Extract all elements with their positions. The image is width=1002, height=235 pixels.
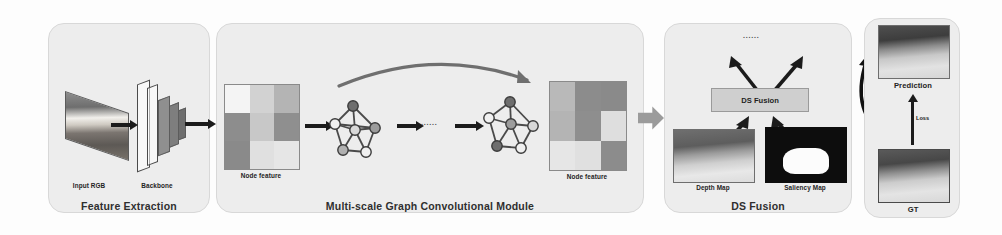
graph-node	[361, 147, 371, 157]
graph-node	[505, 97, 515, 107]
grid-cell-1-2	[274, 113, 299, 141]
title-feature-extraction: Feature Extraction	[49, 200, 209, 212]
label-saliency-map: Saliency Map	[765, 184, 845, 191]
figure-canvas: Input RGB Backbone Feature Extraction No…	[0, 0, 1002, 235]
arrow-rgb-to-backbone	[111, 123, 131, 127]
grid-cell-2-2	[601, 141, 626, 170]
grid-cell-0-0	[550, 82, 575, 111]
graph-node	[484, 113, 494, 123]
arrow-gt-to-prediction	[911, 101, 914, 145]
saliency-map-image	[765, 127, 847, 183]
graph-scale-n	[483, 90, 545, 162]
grid-cell-2-2	[274, 141, 299, 169]
node-feature-grid-1	[224, 84, 300, 170]
label-prediction: Prediction	[868, 81, 958, 90]
grid-cell-0-2	[601, 82, 626, 111]
grid-cell-1-1	[575, 111, 600, 140]
label-gt: GT	[868, 205, 958, 214]
grid-cell-1-1	[250, 113, 275, 141]
title-gcn-module: Multi-scale Graph Convolutional Module	[217, 200, 643, 212]
arrow-grid1-to-graph1	[305, 124, 327, 128]
panel-gcn-module: Node feature ...... Node feature Multi-s…	[216, 23, 644, 213]
grid-cell-0-0	[225, 85, 250, 113]
saliency-blob	[783, 148, 829, 174]
gcn-ellipsis: ......	[421, 119, 437, 126]
arrow-graph1-to-ellipsis	[397, 124, 417, 128]
graph-node	[338, 145, 348, 155]
grid-cell-1-2	[601, 111, 626, 140]
graph-node	[528, 121, 538, 131]
grid-cell-0-1	[575, 82, 600, 111]
graph-node	[492, 141, 502, 151]
title-ds-fusion: DS Fusion	[665, 200, 851, 212]
grid-cell-2-1	[575, 141, 600, 170]
arrow-ellipsis-to-graphn	[455, 124, 477, 128]
graph-scale-1	[331, 92, 391, 164]
label-backbone: Backbone	[127, 182, 187, 189]
panel-prediction-gt: Prediction Loss GT	[864, 18, 960, 218]
graph-node	[348, 101, 358, 111]
recurrent-arc-arrow	[335, 54, 535, 88]
label-loss: Loss	[916, 115, 929, 121]
grid-cell-2-1	[250, 141, 275, 169]
grid-cell-0-2	[274, 85, 299, 113]
label-node-feature-2: Node feature	[549, 173, 625, 180]
label-depth-map: Depth Map	[673, 184, 753, 191]
ds-fusion-output-arrows	[711, 46, 821, 92]
graph-node	[370, 123, 380, 133]
graph-node	[350, 125, 360, 135]
graph-node	[516, 143, 526, 153]
depth-map-image	[673, 129, 755, 183]
node-feature-grid-2	[549, 81, 627, 171]
grid-cell-2-0	[225, 141, 250, 169]
graph-node	[506, 119, 516, 129]
grid-cell-1-0	[550, 111, 575, 140]
graph-node	[330, 119, 340, 129]
grid-cell-2-0	[550, 141, 575, 170]
ground-truth-image	[878, 149, 950, 203]
arrow-extraction-to-gcn	[185, 122, 209, 126]
label-node-feature-1: Node feature	[224, 172, 298, 179]
prediction-image	[878, 25, 950, 79]
panel-ds-fusion: ...... DS Fusion Depth Map Saliency Map …	[664, 23, 852, 213]
ds-fusion-ellipsis: ......	[743, 32, 759, 39]
grid-cell-0-1	[250, 85, 275, 113]
backbone-layer-2	[147, 84, 158, 166]
grid-cell-1-0	[225, 113, 250, 141]
panel-feature-extraction: Input RGB Backbone Feature Extraction	[48, 23, 210, 213]
label-input-rgb: Input RGB	[54, 182, 124, 189]
